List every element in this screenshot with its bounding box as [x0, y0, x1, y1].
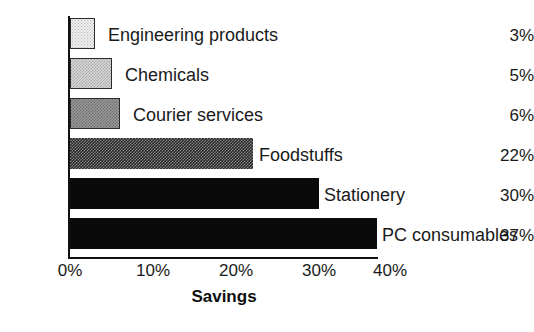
x-axis-title: Savings — [0, 288, 448, 305]
x-tick-30: 30% — [302, 262, 336, 279]
x-axis-line — [68, 257, 378, 259]
value-label-4: 30% — [478, 187, 534, 204]
category-label-chemicals: Chemicals — [125, 66, 209, 84]
category-label-pc-consumables: PC consumables — [382, 226, 518, 244]
x-tick-40: 40% — [373, 262, 407, 279]
value-label-0: 3% — [478, 27, 534, 44]
category-label-foodstuffs: Foodstuffs — [259, 146, 343, 164]
bar-pc-consumables — [70, 218, 377, 249]
value-label-3: 22% — [478, 147, 534, 164]
plot-area: 3% 5% 6% 22% 30% 37% Engineering product… — [0, 0, 534, 332]
bar-stationery — [70, 178, 319, 209]
bar-courier-services — [70, 98, 120, 129]
bar-foodstuffs — [70, 138, 253, 169]
x-tick-20: 20% — [219, 262, 253, 279]
category-label-courier-services: Courier services — [133, 106, 263, 124]
value-label-1: 5% — [478, 67, 534, 84]
category-label-engineering-products: Engineering products — [108, 26, 278, 44]
x-tick-0: 0% — [58, 262, 83, 279]
value-label-2: 6% — [478, 107, 534, 124]
bar-engineering-products — [70, 18, 95, 49]
x-tick-10: 10% — [136, 262, 170, 279]
bar-chemicals — [70, 58, 112, 89]
category-label-stationery: Stationery — [324, 186, 405, 204]
bar-chart: 3% 5% 6% 22% 30% 37% Engineering product… — [0, 0, 534, 332]
